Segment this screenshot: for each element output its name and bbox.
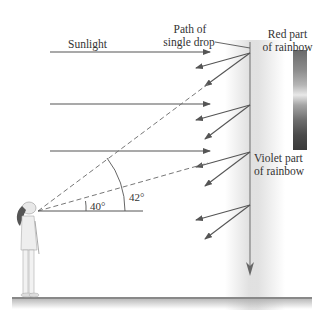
angle-arc-40 — [86, 201, 87, 211]
drop-path-arrow — [246, 42, 254, 276]
angle-40-label: 40° — [90, 200, 105, 212]
drop-label-leader — [215, 42, 250, 48]
sunlight-rays — [50, 52, 210, 151]
observer-figure — [17, 202, 39, 297]
red-part-label-2: of rainbow — [255, 41, 320, 53]
angle-arc-42 — [107, 158, 125, 211]
reflected-rays — [196, 53, 250, 239]
rainbow-diagram: Sunlight Path of single drop Red part of… — [0, 0, 327, 320]
violet-part-label-1: Violet part — [254, 152, 303, 164]
sunlight-label: Sunlight — [68, 38, 107, 50]
violet-part-label-2: of rainbow — [254, 165, 304, 177]
red-part-label-1: Red part — [255, 28, 320, 40]
path-of-single-drop-label-2: single drop — [160, 36, 218, 48]
path-of-single-drop-label-1: Path of — [165, 23, 215, 35]
angle-42-label: 42° — [129, 191, 144, 203]
